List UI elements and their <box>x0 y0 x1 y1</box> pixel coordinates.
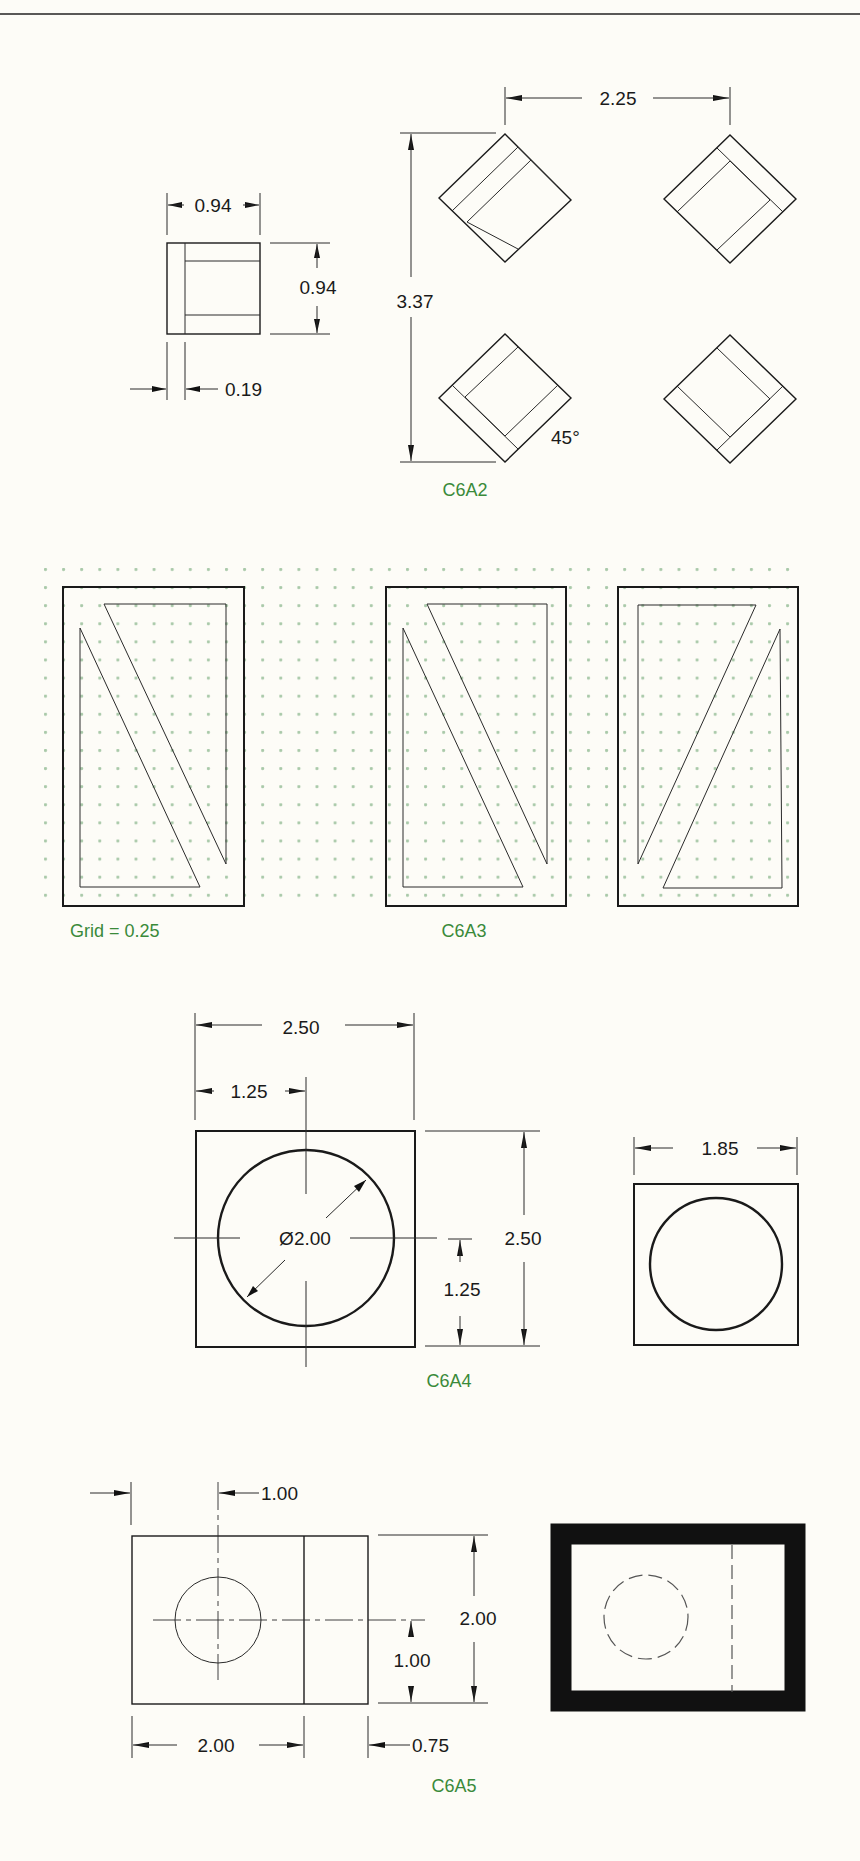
c6a4-center-y-dimension: 1.25 <box>444 1239 481 1345</box>
c6a4-front-view: Ø2.00 <box>174 1077 437 1367</box>
c6a2-horizontal-spacing-dimension: 2.25 <box>505 87 730 125</box>
c6a3-dot-grid <box>44 568 804 908</box>
c6a4-center-x-value: 1.25 <box>231 1081 268 1102</box>
c6a2-rotated-view-bottom-right <box>664 335 796 463</box>
c6a5-front-view <box>132 1482 425 1704</box>
c6a5-left-width-value: 2.00 <box>198 1735 235 1756</box>
c6a4-diameter-value: Ø2.00 <box>279 1228 331 1249</box>
c6a2-height-value: 0.94 <box>300 277 337 298</box>
exercise-c6a3: Grid = 0.25 C6A3 <box>44 568 804 941</box>
c6a5-hole-x-dimension: 1.00 <box>90 1482 298 1525</box>
c6a5-hole-y-value: 1.00 <box>394 1650 431 1671</box>
c6a5-answer-view <box>561 1534 795 1701</box>
c6a5-right-width-dimension: 0.75 <box>368 1716 449 1758</box>
c6a2-exercise-label: C6A2 <box>442 480 487 500</box>
c6a5-hole-y-dimension: 1.00 <box>394 1621 431 1702</box>
c6a5-right-width-value: 0.75 <box>412 1735 449 1756</box>
c6a5-height-dimension: 2.00 <box>378 1535 496 1703</box>
c6a4-height-value: 2.50 <box>505 1228 542 1249</box>
c6a4-side-width-value: 1.85 <box>702 1138 739 1159</box>
c6a4-width-value: 2.50 <box>283 1017 320 1038</box>
c6a2-offset-value: 0.19 <box>225 379 262 400</box>
exercise-c6a5: 1.00 2.00 1.00 2.00 <box>90 1482 795 1796</box>
c6a2-vertical-spacing-value: 3.37 <box>397 291 434 312</box>
c6a5-exercise-label: C6A5 <box>431 1776 476 1796</box>
c6a2-rotated-view-top-left <box>439 134 571 262</box>
exercise-c6a4: Ø2.00 2.50 1.25 2.50 <box>174 1013 798 1391</box>
c6a2-horizontal-spacing-value: 2.25 <box>600 88 637 109</box>
c6a3-grid-note: Grid = 0.25 <box>70 921 160 941</box>
c6a4-side-view: 1.85 <box>634 1137 798 1345</box>
c6a4-width-dimension: 2.50 <box>195 1013 414 1120</box>
c6a4-center-y-value: 1.25 <box>444 1279 481 1300</box>
c6a5-hole-x-value: 1.00 <box>261 1483 298 1504</box>
c6a5-height-value: 2.00 <box>460 1608 497 1629</box>
c6a2-angle-label: 45° <box>551 427 580 448</box>
c6a2-width-dimension: 0.94 <box>167 193 260 235</box>
drawing-page: 0.94 0.94 0.19 <box>0 0 860 1861</box>
c6a2-offset-dimension: 0.19 <box>130 342 262 400</box>
c6a5-left-width-dimension: 2.00 <box>132 1716 304 1758</box>
c6a2-rotated-view-top-right <box>664 135 796 263</box>
c6a3-exercise-label: C6A3 <box>441 921 486 941</box>
c6a2-width-value: 0.94 <box>195 195 232 216</box>
exercise-c6a2: 0.94 0.94 0.19 <box>130 87 796 500</box>
c6a4-center-x-dimension: 1.25 <box>196 1081 305 1102</box>
c6a4-height-dimension: 2.50 <box>425 1131 541 1346</box>
c6a4-exercise-label: C6A4 <box>426 1371 471 1391</box>
c6a2-height-dimension: 0.94 <box>270 243 337 334</box>
c6a2-square-view <box>167 243 260 334</box>
